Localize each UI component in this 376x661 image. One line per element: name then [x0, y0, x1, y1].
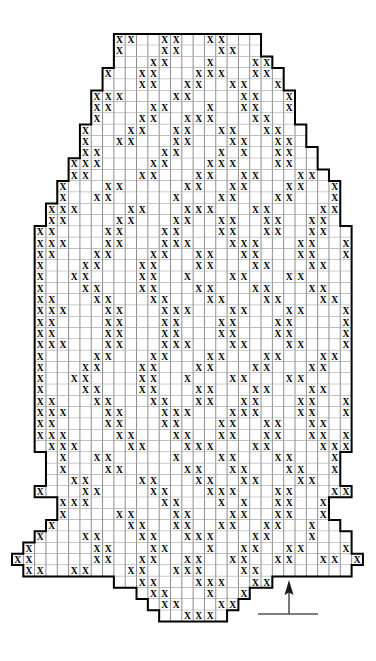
stitch-symbol: X — [297, 249, 304, 260]
stitch-symbol: X — [93, 294, 100, 305]
stitch-symbol: X — [161, 158, 168, 169]
stitch-symbol: X — [59, 407, 66, 418]
stitch-symbol: X — [229, 271, 236, 282]
stitch-symbol: X — [161, 599, 168, 610]
stitch-symbol: X — [173, 136, 180, 147]
stitch-symbol: X — [150, 170, 157, 181]
stitch-symbol: X — [241, 305, 248, 316]
stitch-symbol: X — [139, 531, 146, 542]
stitch-symbol: X — [229, 238, 236, 249]
stitch-symbol: X — [184, 373, 191, 384]
stitch-symbol: X — [93, 283, 100, 294]
stitch-symbol: X — [37, 226, 44, 237]
stitch-symbol: X — [48, 226, 55, 237]
stitch-symbol: X — [241, 91, 248, 102]
stitch-symbol: X — [207, 531, 214, 542]
stitch-symbol: X — [93, 192, 100, 203]
stitch-symbol: X — [275, 79, 282, 90]
stitch-symbol: X — [195, 554, 202, 565]
stitch-symbol: X — [93, 486, 100, 497]
stitch-symbol: X — [173, 418, 180, 429]
stitch-symbol: X — [229, 136, 236, 147]
stitch-symbol: X — [320, 497, 327, 508]
chart-row-background — [114, 45, 261, 56]
stitch-symbol: X — [139, 271, 146, 282]
stitch-symbol: X — [286, 102, 293, 113]
stitch-symbol: X — [48, 441, 55, 452]
stitch-symbol: X — [161, 102, 168, 113]
stitch-symbol: X — [93, 351, 100, 362]
stitch-symbol: X — [207, 57, 214, 68]
stitch-symbol: X — [309, 384, 316, 395]
stitch-symbol: X — [218, 34, 225, 45]
stitch-symbol: X — [207, 441, 214, 452]
stitch-symbol: X — [331, 181, 338, 192]
stitch-symbol: X — [218, 328, 225, 339]
stitch-symbol: X — [173, 147, 180, 158]
stitch-symbol: X — [139, 554, 146, 565]
stitch-symbol: X — [150, 577, 157, 588]
stitch-symbol: X — [184, 305, 191, 316]
stitch-symbol: X — [309, 238, 316, 249]
stitch-symbol: X — [48, 418, 55, 429]
stitch-symbol: X — [173, 407, 180, 418]
stitch-symbol: X — [37, 249, 44, 260]
stitch-symbol: X — [195, 68, 202, 79]
stitch-symbol: X — [297, 373, 304, 384]
stitch-symbol: X — [116, 238, 123, 249]
stitch-symbol: X — [82, 147, 89, 158]
stitch-symbol: X — [252, 396, 259, 407]
stitch-symbol: X — [93, 554, 100, 565]
stitch-symbol: X — [263, 204, 270, 215]
stitch-symbol: X — [116, 430, 123, 441]
stitch-symbol: X — [218, 317, 225, 328]
stitch-symbol: X — [286, 509, 293, 520]
stitch-symbol: X — [93, 113, 100, 124]
stitch-symbol: X — [229, 226, 236, 237]
stitch-symbol: X — [139, 170, 146, 181]
stitch-symbol: X — [161, 351, 168, 362]
stitch-symbol: X — [105, 317, 112, 328]
stitch-symbol: X — [82, 531, 89, 542]
stitch-symbol: X — [320, 430, 327, 441]
stitch-symbol: X — [229, 464, 236, 475]
stitch-symbol: X — [241, 407, 248, 418]
stitch-symbol: X — [195, 204, 202, 215]
stitch-symbol: X — [184, 554, 191, 565]
stitch-symbol: X — [331, 294, 338, 305]
stitch-symbol: X — [195, 396, 202, 407]
stitch-symbol: X — [263, 260, 270, 271]
stitch-symbol: X — [229, 317, 236, 328]
stitch-symbol: X — [37, 238, 44, 249]
stitch-symbol: X — [195, 249, 202, 260]
stitch-symbol: X — [286, 305, 293, 316]
stitch-symbol: X — [173, 509, 180, 520]
stitch-symbol: X — [116, 339, 123, 350]
stitch-symbol: X — [263, 283, 270, 294]
stitch-symbol: X — [263, 68, 270, 79]
stitch-symbol: X — [229, 79, 236, 90]
stitch-symbol: X — [127, 204, 134, 215]
stitch-symbol: X — [48, 305, 55, 316]
stitch-symbol: X — [59, 204, 66, 215]
stitch-symbol: X — [263, 441, 270, 452]
stitch-symbol: X — [320, 441, 327, 452]
stitch-symbol: X — [37, 305, 44, 316]
stitch-symbol: X — [82, 373, 89, 384]
stitch-symbol: X — [252, 113, 259, 124]
stitch-symbol: X — [127, 509, 134, 520]
stitch-symbol: X — [82, 170, 89, 181]
stitch-symbol: X — [37, 373, 44, 384]
stitch-symbol: X — [229, 430, 236, 441]
stitch-symbol: X — [161, 305, 168, 316]
stitch-symbol: X — [229, 125, 236, 136]
stitch-symbol: X — [229, 418, 236, 429]
stitch-symbol: X — [286, 181, 293, 192]
stitch-symbol: X — [59, 452, 66, 463]
stitch-symbol: X — [320, 418, 327, 429]
stitch-symbol: X — [275, 520, 282, 531]
stitch-symbol: X — [37, 565, 44, 576]
stitch-symbol: X — [82, 260, 89, 271]
stitch-symbol: X — [320, 215, 327, 226]
stitch-symbol: X — [263, 294, 270, 305]
